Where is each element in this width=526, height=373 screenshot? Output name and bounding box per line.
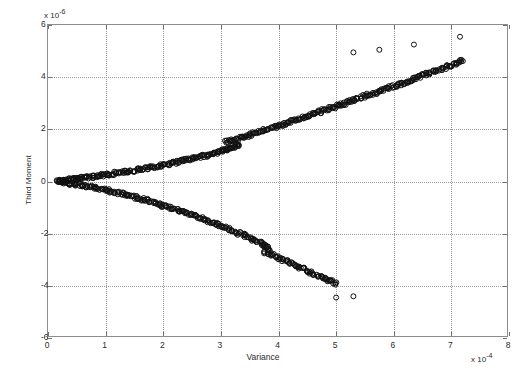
x-tick-label: 1 xyxy=(102,340,107,350)
y-tick-label: 6 xyxy=(41,19,46,29)
x-tick-label: 6 xyxy=(390,340,395,350)
x-tick-label: 8 xyxy=(506,340,511,350)
y-tick-label: -2 xyxy=(41,228,49,238)
x-tick-label: 4 xyxy=(275,340,280,350)
y-axis-title: Third Moment xyxy=(24,155,33,204)
y-axis-exponent-prefix: x 10 xyxy=(44,11,59,20)
y-tick-label: -4 xyxy=(41,280,49,290)
x-tick-label: 7 xyxy=(448,340,453,350)
x-tick-label: 2 xyxy=(160,340,165,350)
x-axis-tick xyxy=(509,25,510,29)
y-axis-exponent: x 10-6 xyxy=(44,8,65,20)
y-tick-label: 4 xyxy=(41,71,46,81)
x-axis-tick xyxy=(509,332,510,336)
x-tick-label: 3 xyxy=(218,340,223,350)
plot-area xyxy=(47,24,508,337)
figure-root: x 10-6 x 10-4 Variance Third Moment 0123… xyxy=(0,0,526,373)
y-tick-label: 0 xyxy=(41,176,46,186)
y-axis-tick xyxy=(503,338,507,339)
scatter-canvas xyxy=(48,25,509,338)
x-axis-title: Variance xyxy=(0,352,526,362)
y-tick-label: 2 xyxy=(41,123,46,133)
y-axis-exponent-value: -6 xyxy=(59,8,65,15)
y-tick-label: -6 xyxy=(41,332,49,342)
x-tick-label: 5 xyxy=(333,340,338,350)
